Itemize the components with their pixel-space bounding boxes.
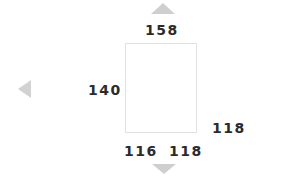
- dimension-label-right: 118: [212, 121, 246, 135]
- triangle-up-icon[interactable]: [151, 3, 175, 14]
- triangle-left-icon[interactable]: [18, 80, 31, 98]
- dimension-label-top: 158: [145, 23, 179, 37]
- dimension-label-bottom-right: 118: [169, 144, 203, 158]
- dimension-label-bottom-left: 116: [124, 144, 158, 158]
- dimension-label-left: 140: [88, 83, 122, 97]
- measurement-region[interactable]: [125, 43, 197, 133]
- measurement-canvas: 158 140 118 116 118: [0, 0, 291, 178]
- triangle-down-icon[interactable]: [152, 164, 176, 174]
